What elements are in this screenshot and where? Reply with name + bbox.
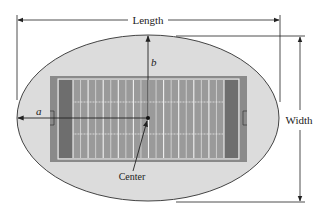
center-label: Center — [119, 171, 146, 182]
end-zone-right — [224, 80, 238, 158]
stadium-ellipse-diagram: Length Width b a Center — [0, 0, 326, 214]
width-label: Width — [285, 114, 313, 126]
center-point — [146, 116, 150, 120]
end-zone-left — [59, 80, 73, 158]
semi-minor-label: b — [151, 56, 157, 68]
semi-major-label: a — [36, 105, 42, 117]
length-label: Length — [132, 14, 164, 26]
